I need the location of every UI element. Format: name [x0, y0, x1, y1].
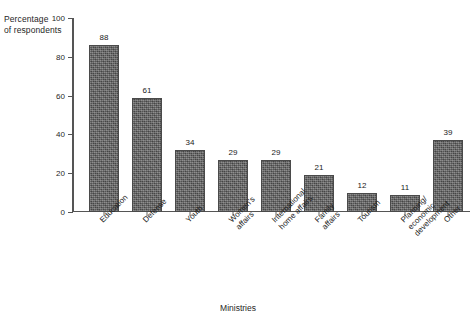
- y-tick-mark: [68, 212, 73, 213]
- plot-area: 020406080100 886134292921121139: [72, 18, 462, 212]
- bar-value-label: 88: [100, 33, 109, 42]
- category-label-slot: Family affairs: [299, 216, 339, 302]
- bar-slot: 21: [299, 18, 339, 212]
- bar-value-label: 11: [401, 183, 409, 192]
- y-tick-label: 40: [56, 130, 65, 139]
- bar[interactable]: [89, 45, 119, 212]
- category-label-slot: Women's affairs: [213, 216, 253, 302]
- bar[interactable]: [132, 98, 162, 212]
- x-axis-title: Ministries: [0, 303, 476, 313]
- y-tick-label: 60: [56, 91, 65, 100]
- bar-slot: 39: [428, 18, 468, 212]
- category-label-slot: International home affairs: [256, 216, 296, 302]
- category-label-slot: Other: [428, 216, 468, 302]
- y-tick-label: 80: [56, 52, 65, 61]
- y-tick-label: 20: [56, 169, 65, 178]
- category-label-slot: Tourism: [342, 216, 382, 302]
- bar-value-label: 61: [143, 86, 152, 95]
- bar-series: 886134292921121139: [72, 18, 462, 212]
- y-tick-label: 100: [52, 14, 65, 23]
- bar-value-label: 21: [315, 163, 324, 172]
- bar-slot: 11: [385, 18, 425, 212]
- bar-value-label: 29: [272, 148, 281, 157]
- bar-slot: 88: [84, 18, 124, 212]
- category-label-slot: Youth: [170, 216, 210, 302]
- category-label-slot: Planning/ economic development: [385, 216, 425, 302]
- bar-slot: 34: [170, 18, 210, 212]
- bar-value-label: 12: [358, 181, 367, 190]
- bar-slot: 29: [256, 18, 296, 212]
- bar-value-label: 29: [229, 148, 238, 157]
- x-axis-category-labels: EducationDefenseYouthWomen's affairsInte…: [72, 216, 462, 302]
- category-label-slot: Defense: [127, 216, 167, 302]
- bar-value-label: 39: [444, 128, 453, 137]
- bar[interactable]: [175, 150, 205, 212]
- bar-slot: 12: [342, 18, 382, 212]
- bar-slot: 29: [213, 18, 253, 212]
- y-tick-label: 0: [61, 208, 65, 217]
- bar-chart: Percentage of respondents 020406080100 8…: [0, 0, 476, 325]
- bar-slot: 61: [127, 18, 167, 212]
- category-label-slot: Education: [84, 216, 124, 302]
- bar-value-label: 34: [186, 138, 195, 147]
